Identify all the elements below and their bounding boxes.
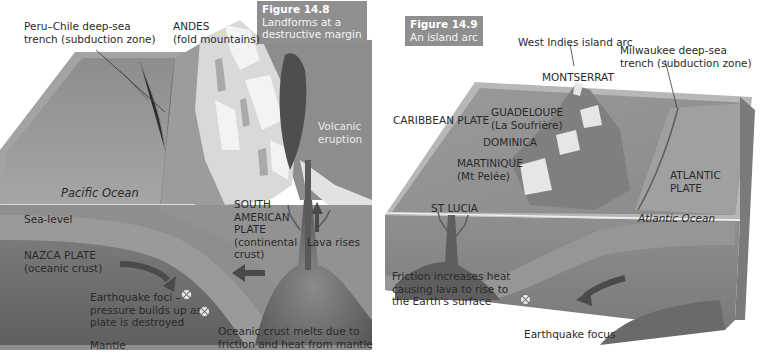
label-friction-line-3: the Earth's surface	[392, 295, 510, 308]
label-mantle: Mantle	[90, 339, 126, 352]
label-foci-line-2: pressure builds up as	[90, 304, 202, 317]
label-west-indies-island-arc: West Indies island arc	[518, 36, 632, 49]
label-trench-line-2: trench (subduction zone)	[24, 33, 156, 46]
label-melts-line-2: friction and heat from mantle	[218, 338, 373, 351]
label-earthquake-focus: Earthquake focus	[524, 328, 615, 341]
label-caribbean-plate: CARIBBEAN PLATE	[393, 114, 489, 127]
figure-caption: Figure 14.8 Landforms at a destructive m…	[257, 1, 367, 44]
earthquake-focus-icon	[199, 306, 210, 317]
label-sea-level: Sea-level	[24, 213, 72, 226]
earthquake-focus-icon	[520, 294, 531, 305]
label-guadeloupe: GUADELOUPE (La Soufrière)	[491, 106, 563, 131]
label-sap-line-5: crust)	[234, 248, 297, 261]
label-friction-line-1: Friction increases heat	[392, 270, 510, 283]
label-montserrat: MONTSERRAT	[542, 71, 614, 84]
figure-14-8-destructive-margin: Figure 14.8 Landforms at a destructive m…	[0, 0, 375, 361]
label-friction-increases-heat: Friction increases heat causing lava to …	[392, 270, 510, 308]
figure-title: An island arc	[410, 31, 478, 44]
label-volcanic-line-1: Volcanic	[318, 120, 362, 133]
label-sap-line-1: SOUTH	[234, 198, 297, 211]
label-martinique-line-1: MARTINIQUE	[457, 157, 523, 170]
label-nazca-line-1: NAZCA PLATE	[24, 249, 102, 262]
label-south-american-plate: SOUTH AMERICAN PLATE (continental crust)	[234, 198, 297, 261]
label-milwaukee-trench: Milwaukee deep-sea trench (subduction zo…	[620, 44, 752, 69]
label-lava-rises: Lava rises	[307, 236, 360, 249]
earthquake-focus-icon	[181, 289, 192, 300]
figure-title-line-2: destructive margin	[262, 28, 362, 41]
label-volcanic-line-2: eruption	[318, 133, 362, 146]
label-nazca-line-2: (oceanic crust)	[24, 262, 102, 275]
label-andes-line-1: ANDES	[173, 20, 260, 33]
label-martinique: MARTINIQUE (Mt Pelée)	[457, 157, 523, 182]
label-atlantic-plate-line-2: PLATE	[670, 182, 721, 195]
label-trench: Peru–Chile deep-sea trench (subduction z…	[24, 20, 156, 45]
label-milwaukee-line-1: Milwaukee deep-sea	[620, 44, 752, 57]
label-melts-line-1: Oceanic crust melts due to	[218, 325, 373, 338]
label-dominica: DOMINICA	[483, 136, 537, 149]
label-guadeloupe-line-2: (La Soufrière)	[491, 119, 563, 132]
label-nazca-plate: NAZCA PLATE (oceanic crust)	[24, 249, 102, 274]
label-friction-line-2: causing lava to rise to	[392, 283, 510, 296]
label-martinique-line-2: (Mt Pelée)	[457, 170, 523, 183]
label-sap-line-2: AMERICAN	[234, 211, 297, 224]
label-oceanic-crust-melts: Oceanic crust melts due to friction and …	[218, 325, 373, 350]
figure-number: Figure 14.8	[262, 3, 362, 16]
label-foci-line-3: plate is destroyed	[90, 316, 202, 329]
label-andes: ANDES (fold mountains)	[173, 20, 260, 45]
label-sap-line-3: PLATE	[234, 223, 297, 236]
label-pacific-ocean: Pacific Ocean	[61, 187, 139, 200]
figure-title-line-1: Landforms at a	[262, 16, 362, 29]
label-andes-line-2: (fold mountains)	[173, 33, 260, 46]
label-trench-line-1: Peru–Chile deep-sea	[24, 20, 156, 33]
label-guadeloupe-line-1: GUADELOUPE	[491, 106, 563, 119]
arrow-west-icon	[243, 270, 265, 276]
label-sap-line-4: (continental	[234, 236, 297, 249]
label-milwaukee-line-2: trench (subduction zone)	[620, 57, 752, 70]
figure-number: Figure 14.9	[410, 18, 478, 31]
label-volcanic-eruption: Volcanic eruption	[318, 120, 362, 145]
label-atlantic-plate-line-1: ATLANTIC	[670, 169, 721, 182]
figure-14-9-island-arc: Figure 14.9 An island arc West Indies is…	[380, 0, 760, 361]
label-atlantic-ocean: Atlantic Ocean	[638, 212, 715, 225]
label-atlantic-plate: ATLANTIC PLATE	[670, 169, 721, 194]
arrow-up-icon	[315, 212, 319, 232]
label-st-lucia: ST LUCIA	[431, 202, 478, 215]
figure-caption: Figure 14.9 An island arc	[405, 16, 483, 46]
